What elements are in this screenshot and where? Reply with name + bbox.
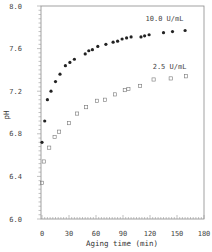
data-point xyxy=(54,80,57,83)
data-point xyxy=(95,99,98,102)
data-point xyxy=(143,34,146,37)
y-tick-label: 6.4 xyxy=(9,173,22,181)
y-tick-label: 7.6 xyxy=(9,45,22,53)
series-label-10-u-ml: 10.0 U/mL xyxy=(146,15,184,23)
data-point xyxy=(58,130,61,133)
x-tick-label: 0 xyxy=(40,230,44,238)
y-axis-ticks xyxy=(37,6,41,219)
data-point xyxy=(40,141,43,144)
y-tick-label: 6.8 xyxy=(9,130,22,138)
data-point xyxy=(68,61,71,64)
y-tick-label: 6.0 xyxy=(9,216,22,224)
data-point xyxy=(87,49,90,52)
data-point xyxy=(76,112,79,115)
data-point xyxy=(42,160,45,163)
x-tick-label: 120 xyxy=(144,230,157,238)
x-tick-label: 180 xyxy=(198,230,211,238)
y-axis-title: pH xyxy=(2,110,11,120)
data-point xyxy=(184,29,187,32)
data-point xyxy=(96,45,99,48)
data-point xyxy=(113,93,116,96)
data-point xyxy=(91,48,94,51)
data-point xyxy=(139,84,142,87)
data-point xyxy=(123,89,126,92)
ph-vs-aging-time-chart: 6.06.46.87.27.68.0 0306090120150180 Agin… xyxy=(0,0,212,252)
data-point xyxy=(139,35,142,38)
data-point xyxy=(127,87,130,90)
x-tick-label: 150 xyxy=(171,230,184,238)
data-point xyxy=(171,30,174,33)
data-point xyxy=(46,98,49,101)
x-tick-label: 90 xyxy=(119,230,127,238)
data-point xyxy=(152,78,155,81)
data-point xyxy=(112,41,115,44)
data-series xyxy=(40,29,187,184)
series-filled-circles xyxy=(40,29,186,144)
series-label-2-5-u-ml: 2.5 U/mL xyxy=(153,63,187,71)
data-point xyxy=(130,35,133,38)
data-point xyxy=(104,43,107,46)
x-axis-title: Aging time (min) xyxy=(86,239,158,248)
y-tick-label: 7.2 xyxy=(9,88,22,96)
data-point xyxy=(58,73,61,76)
data-point xyxy=(84,52,87,55)
x-axis-tick-labels: 0306090120150180 xyxy=(40,230,210,238)
data-point xyxy=(48,146,51,149)
data-point xyxy=(85,106,88,109)
y-tick-label: 8.0 xyxy=(9,3,22,11)
data-point xyxy=(162,31,165,34)
y-axis-tick-labels: 6.06.46.87.27.68.0 xyxy=(9,3,22,224)
data-point xyxy=(49,90,52,93)
data-point xyxy=(43,119,46,122)
x-tick-label: 60 xyxy=(92,230,100,238)
x-tick-label: 30 xyxy=(65,230,73,238)
data-point xyxy=(169,77,172,80)
data-point xyxy=(184,75,187,78)
data-point xyxy=(53,135,56,138)
data-point xyxy=(103,98,106,101)
x-axis-ticks xyxy=(42,215,204,219)
data-point xyxy=(148,33,151,36)
data-point xyxy=(125,36,128,39)
data-point xyxy=(121,37,124,40)
data-point xyxy=(64,64,67,67)
data-point xyxy=(67,122,70,125)
data-point xyxy=(116,40,119,43)
data-point xyxy=(73,58,76,61)
series-open-squares xyxy=(40,75,187,185)
